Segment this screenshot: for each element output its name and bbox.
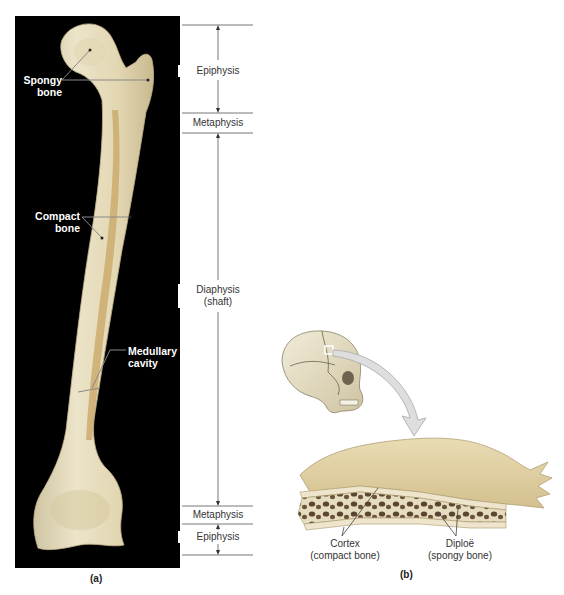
- metaphysis-top-label: Metaphysis: [178, 117, 258, 129]
- diploe-label-line1: Diploë: [415, 538, 505, 550]
- spongy-bone-label-line2: bone: [20, 86, 62, 98]
- cortex-label: Cortex (compact bone): [300, 538, 390, 562]
- epiphysis-top-label: Epiphysis: [178, 65, 258, 77]
- diaphysis-label-line2: (shaft): [178, 296, 258, 308]
- skull-illustration: [282, 331, 363, 413]
- medullary-cavity-label-line1: Medullary: [128, 345, 178, 357]
- medullary-cavity-label-line2: cavity: [128, 357, 178, 369]
- diploe-label-line2: (spongy bone): [415, 550, 505, 562]
- panel-a-letter: (a): [90, 573, 102, 585]
- epiphysis-bottom-label: Epiphysis: [178, 531, 258, 543]
- cortex-label-line1: Cortex: [300, 538, 390, 550]
- medullary-cavity-label: Medullary cavity: [128, 345, 178, 369]
- cortex-label-line2: (compact bone): [300, 550, 390, 562]
- panel-b-letter: (b): [400, 569, 413, 581]
- metaphysis-bottom-label: Metaphysis: [178, 509, 258, 521]
- spongy-bone-label-line1: Spongy: [20, 74, 62, 86]
- compact-bone-label-line2: bone: [28, 222, 80, 234]
- compact-bone-label-line1: Compact: [28, 210, 80, 222]
- diaphysis-label-line1: Diaphysis: [178, 284, 258, 296]
- femur-bone: [34, 24, 154, 550]
- diploe-label: Diploë (spongy bone): [415, 538, 505, 562]
- diaphysis-label: Diaphysis (shaft): [178, 284, 258, 308]
- skull-bone-section: [298, 438, 552, 530]
- diagram-graphics: [0, 0, 564, 595]
- spongy-bone-label: Spongy bone: [20, 74, 62, 98]
- compact-bone-label: Compact bone: [28, 210, 80, 234]
